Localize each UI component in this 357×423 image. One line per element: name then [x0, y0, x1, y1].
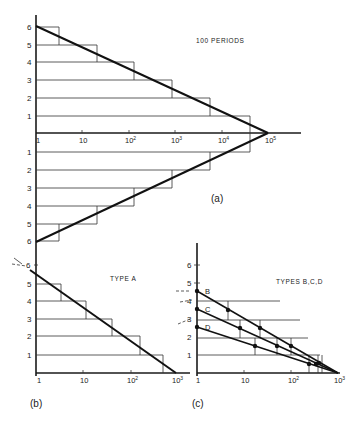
svg-text:10: 10 [241, 376, 249, 385]
panel-c-x-tick-labels: 1 10 102 103 [196, 375, 345, 385]
panel-c-y-labels: 6 5 4 3 2 1 [187, 261, 192, 360]
svg-text:1: 1 [196, 376, 200, 385]
svg-text:4: 4 [27, 297, 32, 306]
panel-c-fit-line-d [197, 327, 338, 373]
svg-text:3: 3 [27, 315, 32, 324]
panel-b-title: TYPE A [110, 275, 136, 282]
svg-text:1: 1 [27, 148, 32, 157]
svg-text:3: 3 [187, 315, 192, 324]
panel-c-points-d [195, 325, 311, 366]
svg-text:6: 6 [26, 261, 31, 270]
svg-text:1: 1 [37, 376, 41, 385]
panel-a-lower-steps [36, 133, 250, 241]
svg-text:5: 5 [27, 280, 32, 289]
svg-text:103: 103 [334, 375, 345, 385]
svg-text:1: 1 [187, 351, 192, 360]
panel-c: B C D 1 10 102 103 6 5 4 3 2 1 TYPES B,C… [176, 243, 345, 409]
panel-c-fit-line-b [197, 291, 338, 373]
svg-text:102: 102 [288, 375, 299, 385]
svg-text:10: 10 [79, 136, 87, 145]
svg-text:4: 4 [27, 58, 32, 67]
svg-text:1: 1 [27, 351, 32, 360]
svg-text:6: 6 [27, 23, 32, 32]
panel-b-fit-line [30, 270, 176, 373]
svg-text:102: 102 [125, 135, 136, 145]
series-label-b: B [205, 287, 210, 296]
panel-b-y-labels: 6 5 4 3 2 1 [26, 261, 32, 360]
svg-text:5: 5 [27, 220, 32, 229]
figure-canvas: 1 10 102 103 104 105 6 5 4 3 2 1 1 2 3 4… [0, 0, 357, 423]
panel-a-title: 100 PERIODS [196, 37, 245, 44]
svg-text:5: 5 [187, 279, 192, 288]
svg-text:105: 105 [265, 135, 276, 145]
svg-text:103: 103 [171, 135, 182, 145]
panel-b-x-tick-labels: 1 10 102 103 [37, 375, 183, 385]
svg-text:2: 2 [27, 166, 32, 175]
panel-a-caption: (a) [211, 193, 223, 204]
svg-text:10: 10 [80, 376, 88, 385]
panel-a: 1 10 102 103 104 105 6 5 4 3 2 1 1 2 3 4… [27, 15, 301, 246]
svg-text:3: 3 [27, 76, 32, 85]
svg-text:2: 2 [27, 94, 32, 103]
svg-text:6: 6 [187, 261, 192, 270]
panel-b-dash-mark [12, 264, 26, 266]
panel-a-y-labels-lower: 1 2 3 4 5 6 [27, 148, 32, 246]
svg-text:1: 1 [36, 136, 40, 145]
panel-c-title: TYPES B,C,D [276, 278, 323, 285]
svg-text:2: 2 [187, 333, 192, 342]
svg-text:104: 104 [218, 135, 229, 145]
panel-a-lower-fit-line [36, 133, 268, 242]
panel-b-steps [36, 284, 163, 373]
series-label-c: C [205, 305, 211, 314]
svg-text:5: 5 [27, 41, 32, 50]
panel-b-caption: (b) [30, 398, 42, 409]
svg-text:3: 3 [27, 184, 32, 193]
svg-text:4: 4 [187, 297, 192, 306]
svg-text:4: 4 [27, 202, 32, 211]
panel-b: 1 10 102 103 6 5 4 3 2 1 TYPE A (b) [12, 246, 190, 409]
svg-text:2: 2 [27, 332, 32, 341]
svg-text:1: 1 [27, 112, 32, 121]
svg-text:6: 6 [27, 237, 32, 246]
panel-a-x-tick-labels: 1 10 102 103 104 105 [36, 135, 276, 145]
panel-a-y-labels-upper: 6 5 4 3 2 1 [27, 23, 32, 121]
svg-text:102: 102 [127, 375, 138, 385]
svg-text:103: 103 [172, 375, 183, 385]
panel-c-caption: (c) [192, 398, 204, 409]
series-label-d: D [205, 323, 211, 332]
